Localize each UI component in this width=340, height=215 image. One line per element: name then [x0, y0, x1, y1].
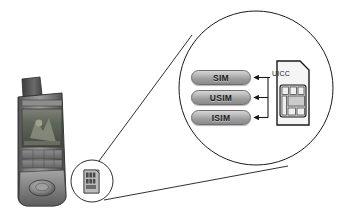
application-pill-usim[interactable]: USIM	[191, 90, 251, 105]
uicc-card-label: UICC	[272, 70, 290, 77]
sim-card-thumbnail	[71, 160, 113, 202]
phone-nav-pad-center	[36, 183, 49, 191]
application-label-sim: SIM	[213, 73, 229, 83]
magnifier-circle-outline	[179, 11, 333, 165]
uicc-chip-contacts	[280, 85, 306, 117]
application-label-isim: ISIM	[212, 113, 231, 123]
mobile-phone	[18, 77, 66, 206]
phone-earpiece	[22, 100, 62, 106]
connector-line-bottom	[104, 166, 288, 200]
thumbnail-sim-card	[84, 170, 99, 193]
application-pill-sim[interactable]: SIM	[191, 70, 251, 85]
connector-layer	[0, 0, 340, 215]
application-label-usim: USIM	[210, 93, 232, 103]
connector-line-top	[96, 35, 192, 165]
diagram-canvas: SIM USIM ISIM UICC	[0, 0, 340, 215]
phone-keypad	[22, 150, 62, 168]
application-pill-isim[interactable]: ISIM	[191, 110, 251, 125]
